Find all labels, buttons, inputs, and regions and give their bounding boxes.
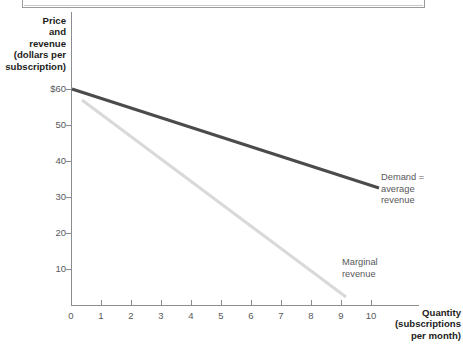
demand-series-label-line-1: Demand = xyxy=(381,172,424,184)
x-axis-title-line-1: Quantity xyxy=(355,307,461,318)
x-axis-title-line-3: per month) xyxy=(355,330,461,341)
marginal-revenue-series-label: Marginal revenue xyxy=(342,257,378,280)
demand-series-label-line-2: average xyxy=(381,184,424,196)
demand-average-revenue-line xyxy=(72,89,379,188)
demand-series-label: Demand = average revenue xyxy=(381,172,424,207)
demand-series-label-line-3: revenue xyxy=(381,195,424,207)
marginal-revenue-line xyxy=(82,100,346,297)
x-axis-title-line-2: (subscriptions xyxy=(355,318,461,329)
mr-series-label-line-1: Marginal xyxy=(342,257,378,269)
mr-series-label-line-2: revenue xyxy=(342,269,378,281)
chart-figure: Price and revenue (dollars per subscript… xyxy=(0,0,463,353)
x-axis-title: Quantity (subscriptions per month) xyxy=(355,307,461,341)
